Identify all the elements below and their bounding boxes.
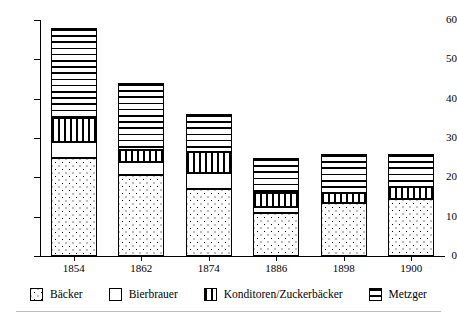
bar-segment xyxy=(118,162,164,176)
x-axis-line xyxy=(40,256,445,257)
y-axis-tick xyxy=(34,99,41,100)
y-axis-tick xyxy=(34,138,41,139)
bar-segment xyxy=(321,203,367,256)
bar-group xyxy=(118,20,164,256)
bar-segment xyxy=(321,154,367,193)
bar-segment xyxy=(253,193,299,207)
legend-label: Bierbrauer xyxy=(129,288,178,301)
x-axis-tick-label: 1854 xyxy=(44,262,104,274)
bar-segment xyxy=(51,28,97,118)
footer-divider xyxy=(16,311,441,312)
bar-segment xyxy=(51,118,97,142)
legend-item: Bierbrauer xyxy=(109,288,178,301)
legend-item: Metzger xyxy=(369,288,427,301)
legend-label: Bäcker xyxy=(50,288,83,301)
x-axis-tick xyxy=(74,256,75,261)
x-axis-tick-label: 1900 xyxy=(381,262,441,274)
bar-group xyxy=(253,20,299,256)
x-axis-tick-label: 1898 xyxy=(314,262,374,274)
bar-segment xyxy=(388,154,434,187)
bar-segment xyxy=(118,150,164,162)
x-axis-tick xyxy=(276,256,277,261)
bar-segment xyxy=(253,207,299,213)
bar-segment xyxy=(118,175,164,256)
legend-label: Metzger xyxy=(389,288,427,301)
bar-segment xyxy=(321,193,367,203)
x-axis-tick-label: 1862 xyxy=(111,262,171,274)
bar-group xyxy=(388,20,434,256)
bar-segment xyxy=(253,158,299,193)
y-axis-tick xyxy=(34,177,41,178)
bar-segment xyxy=(186,189,232,256)
bar-group xyxy=(321,20,367,256)
bar-segment xyxy=(118,83,164,150)
legend-item: Bäcker xyxy=(30,288,83,301)
legend-swatch-horizontal-lines-icon xyxy=(369,288,382,301)
plot-area: 0102030405060 185418621874188618981900 xyxy=(0,0,457,272)
legend-swatch-vertical-lines-icon xyxy=(204,288,217,301)
bar-segment xyxy=(186,114,232,151)
legend-swatch-dots-icon xyxy=(30,288,43,301)
bar-group xyxy=(51,20,97,256)
x-axis-tick xyxy=(141,256,142,261)
legend-item: Konditoren/Zuckerbäcker xyxy=(204,288,343,301)
chart-legend: BäckerBierbrauerKonditoren/ZuckerbäckerM… xyxy=(0,282,457,306)
y-axis-tick xyxy=(34,217,41,218)
stacked-bar-chart: 0102030405060 185418621874188618981900 B… xyxy=(0,0,457,318)
bar-segment xyxy=(186,173,232,189)
bar-segment xyxy=(388,199,434,256)
y-axis-tick xyxy=(34,59,41,60)
x-axis-tick-label: 1886 xyxy=(246,262,306,274)
bar-segment xyxy=(388,187,434,199)
bar-group xyxy=(186,20,232,256)
legend-swatch-blank-icon xyxy=(109,288,122,301)
legend-label: Konditoren/Zuckerbäcker xyxy=(224,288,343,301)
bar-segment xyxy=(253,213,299,256)
bar-segment xyxy=(51,158,97,256)
bar-segment xyxy=(51,142,97,158)
x-axis-tick-label: 1874 xyxy=(179,262,239,274)
x-axis-tick xyxy=(411,256,412,261)
bar-segment xyxy=(186,152,232,174)
y-axis-tick xyxy=(34,20,41,21)
y-axis-tick xyxy=(34,256,41,257)
x-axis-tick xyxy=(344,256,345,261)
x-axis-tick xyxy=(209,256,210,261)
